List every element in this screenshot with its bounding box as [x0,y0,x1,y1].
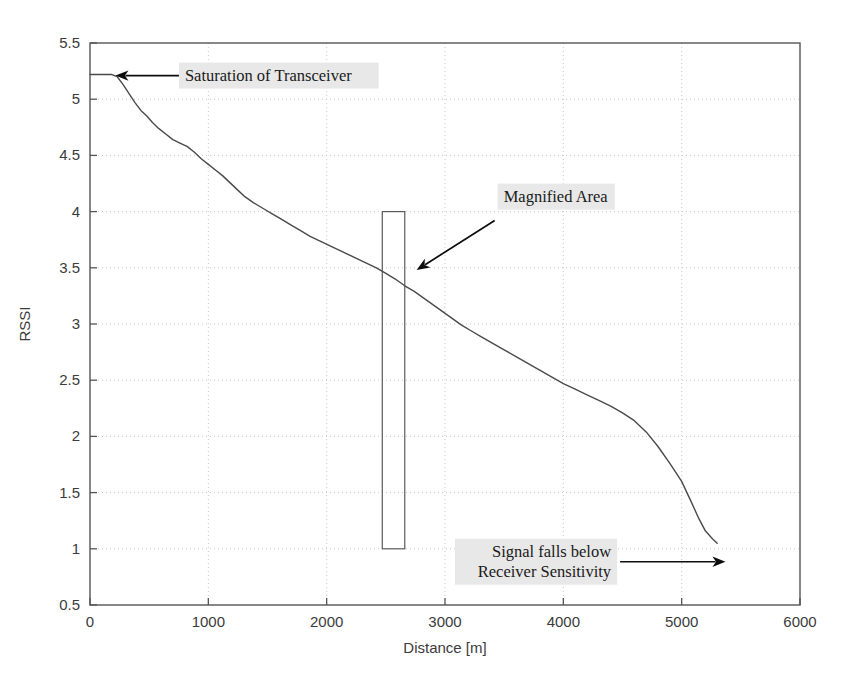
y-tick-label: 5.5 [59,34,80,51]
y-tick-label: 5 [72,90,80,107]
x-tick-label: 0 [86,613,94,630]
y-tick-label: 2 [72,427,80,444]
saturation-annotation-text: Saturation of Transceiver [185,66,352,85]
x-tick-label: 4000 [547,613,580,630]
magnified-annotation-text: Magnified Area [504,187,609,206]
y-tick-label: 3 [72,315,80,332]
y-tick-label: 1.5 [59,484,80,501]
x-tick-label: 1000 [192,613,225,630]
sensitivity-annotation-text: Signal falls below [492,542,611,561]
y-tick-label: 0.5 [59,596,80,613]
x-axis-label: Distance [m] [403,639,486,656]
chart-background [0,0,857,679]
x-tick-label: 2000 [310,613,343,630]
y-tick-label: 3.5 [59,259,80,276]
chart-page: 0100020003000400050006000 0.511.522.533.… [0,0,857,679]
sensitivity-annotation-text: Receiver Sensitivity [478,562,612,581]
x-tick-label: 6000 [783,613,816,630]
rssi-distance-chart: 0100020003000400050006000 0.511.522.533.… [0,0,857,679]
y-tick-label: 2.5 [59,371,80,388]
y-axis-label: RSSI [16,306,33,341]
x-tick-label: 5000 [665,613,698,630]
x-tick-label: 3000 [428,613,461,630]
y-tick-label: 1 [72,540,80,557]
y-tick-label: 4 [72,203,80,220]
y-tick-label: 4.5 [59,146,80,163]
